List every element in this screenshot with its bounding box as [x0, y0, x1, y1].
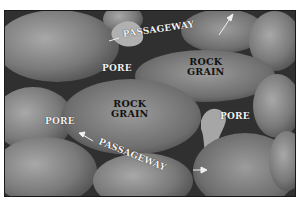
- rock-grain-label-top: ROCK GRAIN: [187, 57, 225, 77]
- rock-grain-label-center: ROCK GRAIN: [111, 99, 149, 119]
- diagram-frame: PASSAGEWAY PORE ROCK GRAIN ROCK GRAIN PO…: [4, 10, 296, 197]
- rock-grains-illustration: [5, 11, 295, 196]
- pore-label-right: PORE: [220, 112, 250, 121]
- grain-word: GRAIN: [111, 109, 149, 119]
- pore-label-left: PORE: [45, 117, 75, 126]
- pore-label-top: PORE: [102, 64, 132, 73]
- grain-word: GRAIN: [187, 67, 225, 77]
